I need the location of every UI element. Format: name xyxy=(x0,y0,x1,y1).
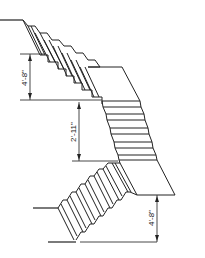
dimension-lower-rise: 4'-8" xyxy=(147,195,159,242)
upper-rise-label: 4'-8" xyxy=(20,70,29,86)
middle-landing xyxy=(88,67,140,101)
lower-rise-label: 4'-8" xyxy=(147,210,156,226)
staircase-drawing: 4'-8" 2'-11" 4'-8" xyxy=(0,0,205,258)
middle-rise-label: 2'-11" xyxy=(69,122,78,142)
middle-flight xyxy=(102,101,157,163)
lower-flight xyxy=(33,163,157,242)
upper-flight xyxy=(23,20,102,104)
lower-landing xyxy=(137,160,175,195)
